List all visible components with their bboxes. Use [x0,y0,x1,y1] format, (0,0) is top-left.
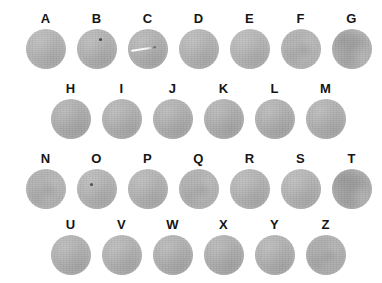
sample-disc-e[interactable] [230,29,270,69]
sample-row-4: UVWXYZ [0,218,382,275]
sample-label-e: E [245,12,254,26]
sample-cell-p[interactable]: P [122,152,173,209]
sample-disc-b[interactable] [77,29,117,69]
sample-disc-wrap-u [51,235,91,275]
sample-disc-wrap-r [230,169,270,209]
sample-cell-w[interactable]: W [147,218,198,275]
sample-label-o: O [91,152,101,166]
sample-disc-wrap-m [306,99,346,139]
sample-disc-c[interactable] [128,29,168,69]
sample-disc-h[interactable] [51,99,91,139]
sample-cell-k[interactable]: K [198,82,249,139]
sample-disc-wrap-p [128,169,168,209]
sample-label-q: Q [193,152,203,166]
disc-streak-mark-icon [130,46,155,52]
sample-cell-x[interactable]: X [198,218,249,275]
sample-disc-wrap-z [306,235,346,275]
sample-cell-h[interactable]: H [45,82,96,139]
sample-label-t: T [347,152,355,166]
sample-disc-wrap-c [128,29,168,69]
sample-disc-wrap-j [153,99,193,139]
sample-disc-wrap-b [77,29,117,69]
sample-disc-n[interactable] [26,169,66,209]
sample-cell-m[interactable]: M [300,82,351,139]
sample-label-m: M [320,82,331,96]
sample-label-c: C [143,12,153,26]
sample-cell-v[interactable]: V [96,218,147,275]
sample-cell-r[interactable]: R [224,152,275,209]
sample-cell-e[interactable]: E [224,12,275,69]
sample-disc-wrap-w [153,235,193,275]
sample-disc-x[interactable] [204,235,244,275]
sample-label-d: D [194,12,204,26]
sample-disc-d[interactable] [179,29,219,69]
sample-label-v: V [117,218,126,232]
sample-disc-k[interactable] [204,99,244,139]
sample-disc-v[interactable] [102,235,142,275]
sample-label-b: B [92,12,102,26]
sample-cell-z[interactable]: Z [300,218,351,275]
sample-label-s: S [296,152,305,166]
sample-disc-g[interactable] [332,29,372,69]
sample-cell-c[interactable]: C [122,12,173,69]
sample-row-1: ABCDEFG [0,12,382,69]
sample-disc-m[interactable] [306,99,346,139]
sample-label-z: Z [321,218,329,232]
sample-disc-s[interactable] [281,169,321,209]
sample-label-f: F [296,12,304,26]
sample-disc-p[interactable] [128,169,168,209]
sample-disc-wrap-e [230,29,270,69]
sample-cell-n[interactable]: N [20,152,71,209]
sample-disc-a[interactable] [26,29,66,69]
sample-disc-r[interactable] [230,169,270,209]
sample-disc-wrap-s [281,169,321,209]
sample-row-3: NOPQRST [0,152,382,209]
sample-label-p: P [143,152,152,166]
sample-disc-t[interactable] [332,169,372,209]
sample-cell-a[interactable]: A [20,12,71,69]
sample-disc-i[interactable] [102,99,142,139]
sample-cell-g[interactable]: G [326,12,377,69]
sample-label-j: J [169,82,176,96]
sample-label-g: G [346,12,356,26]
sample-disc-q[interactable] [179,169,219,209]
sample-disc-o[interactable] [77,169,117,209]
sample-disc-u[interactable] [51,235,91,275]
sample-cell-l[interactable]: L [249,82,300,139]
sample-cell-s[interactable]: S [275,152,326,209]
sample-label-r: R [245,152,255,166]
sample-disc-wrap-q [179,169,219,209]
sample-cell-b[interactable]: B [71,12,122,69]
disc-spot-mark-icon [99,38,102,41]
sample-disc-y[interactable] [255,235,295,275]
sample-cell-i[interactable]: I [96,82,147,139]
sample-disc-w[interactable] [153,235,193,275]
sample-label-w: W [166,218,178,232]
sample-disc-z[interactable] [306,235,346,275]
sample-disc-wrap-t [332,169,372,209]
sample-disc-wrap-d [179,29,219,69]
sample-disc-wrap-o [77,169,117,209]
sample-label-x: X [219,218,228,232]
sample-disc-wrap-v [102,235,142,275]
sample-cell-f[interactable]: F [275,12,326,69]
sample-cell-j[interactable]: J [147,82,198,139]
sample-label-h: H [66,82,76,96]
sample-disc-wrap-h [51,99,91,139]
sample-label-i: I [120,82,124,96]
sample-disc-f[interactable] [281,29,321,69]
sample-cell-o[interactable]: O [71,152,122,209]
sample-label-n: N [41,152,51,166]
sample-disc-wrap-a [26,29,66,69]
sample-disc-l[interactable] [255,99,295,139]
sample-cell-u[interactable]: U [45,218,96,275]
disc-spot-mark-icon [90,183,93,186]
sample-cell-d[interactable]: D [173,12,224,69]
sample-cell-y[interactable]: Y [249,218,300,275]
sample-disc-j[interactable] [153,99,193,139]
sample-cell-q[interactable]: Q [173,152,224,209]
sample-cell-t[interactable]: T [326,152,377,209]
sample-disc-wrap-l [255,99,295,139]
sample-disc-wrap-i [102,99,142,139]
sample-grid-board: ABCDEFGHIJKLMNOPQRSTUVWXYZ [0,0,382,283]
